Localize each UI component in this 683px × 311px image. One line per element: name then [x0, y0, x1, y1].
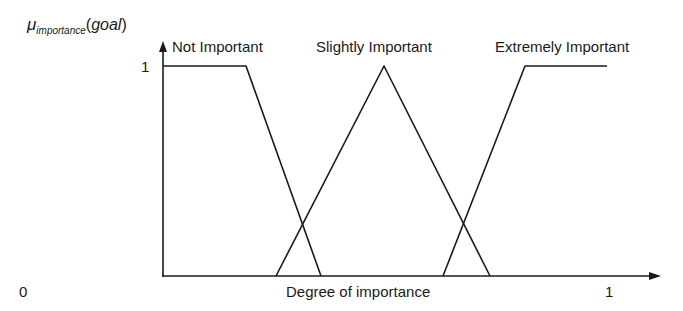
y-tick-1: 1	[141, 58, 149, 75]
x-axis-title: Degree of importance	[286, 283, 430, 300]
series-extremely-important	[443, 66, 607, 276]
y-axis-arg: goal	[91, 16, 122, 33]
series-not-important	[163, 66, 321, 276]
label-extremely-important: Extremely Important	[495, 38, 630, 55]
x-tick-1: 1	[605, 283, 613, 300]
x-axis-arrow-icon	[649, 272, 661, 280]
x-tick-0: 0	[19, 283, 27, 300]
label-not-important: Not Important	[172, 38, 264, 55]
y-axis-arg-close: )	[121, 16, 126, 33]
y-axis-arrow-icon	[159, 41, 167, 52]
y-axis-subscript: importance	[36, 25, 86, 36]
membership-function-diagram: μimportance(goal) 1 0 1 Degree of import…	[0, 0, 683, 311]
y-axis-title: μimportance(goal)	[26, 15, 127, 36]
series-slightly-important	[276, 66, 490, 276]
label-slightly-important: Slightly Important	[316, 38, 433, 55]
